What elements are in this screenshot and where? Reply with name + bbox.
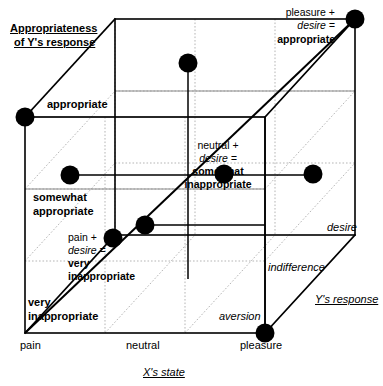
level-label-very-inappropriate-line1: very — [28, 296, 51, 309]
vertical-axis-title-line1: Appropriateness — [10, 22, 97, 34]
callout-pleasure-desire-line2: desire = — [175, 19, 335, 31]
data-point[interactable] — [179, 54, 198, 73]
x-axis-title: X's state — [143, 366, 185, 379]
callout-pleasure-desire-line3: appropriate — [175, 33, 335, 45]
data-point[interactable] — [16, 108, 35, 127]
level-label-appropriate: appropriate — [47, 98, 108, 111]
vertical-axis-title-line2: of Y's response — [14, 36, 95, 48]
depth-tick-desire: desire — [327, 221, 357, 234]
vertical-axis-title-line2-wrap: of Y's response — [14, 36, 95, 49]
data-point[interactable] — [304, 165, 323, 184]
level-label-somewhat-appropriate-line1: somewhat — [33, 191, 87, 204]
diagram-canvas: Appropriateness of Y's response appropri… — [0, 0, 383, 386]
x-tick-neutral: neutral — [126, 339, 160, 352]
data-point[interactable] — [104, 229, 123, 248]
callout-pain-desire-line4: inappropriate — [68, 270, 135, 282]
data-point[interactable] — [61, 166, 80, 185]
callout-neutral-desire-line1: neutral + — [150, 139, 286, 151]
x-tick-pleasure: pleasure — [240, 339, 282, 352]
data-point[interactable] — [346, 10, 365, 29]
callout-neutral-desire-line4: inappropriate — [150, 178, 286, 190]
level-label-somewhat-appropriate-line2: appropriate — [33, 205, 94, 218]
callout-pain-desire-line3: very — [68, 257, 90, 269]
callout-pleasure-desire-line1: pleasure + — [175, 6, 335, 18]
depth-axis-title: Y's response — [315, 293, 378, 306]
x-tick-pain: pain — [20, 339, 41, 352]
callout-neutral-desire-line2: desire = — [150, 152, 286, 164]
vertical-axis-title: Appropriateness — [10, 22, 97, 35]
data-point[interactable] — [136, 216, 155, 235]
level-label-very-inappropriate-line2: inappropriate — [28, 310, 98, 323]
callout-pain-desire-line1: pain + — [68, 231, 97, 243]
callout-pain-desire-line2: desire = — [68, 244, 106, 256]
depth-tick-indifference: indifference — [268, 261, 325, 274]
depth-tick-aversion: aversion — [219, 310, 261, 323]
callout-neutral-desire-line3: somewhat — [150, 165, 286, 177]
